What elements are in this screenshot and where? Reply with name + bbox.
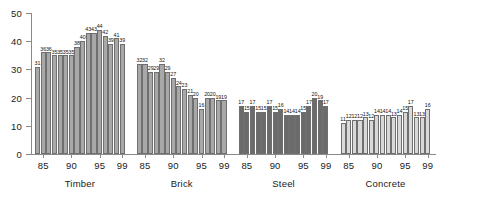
bar[interactable] [256, 112, 261, 154]
bar-item[interactable]: 13 [420, 13, 425, 154]
bar[interactable] [363, 117, 368, 154]
bar-item[interactable]: 17 [267, 13, 272, 154]
bar[interactable] [323, 106, 328, 154]
bar[interactable] [346, 120, 351, 154]
bar-item[interactable]: 11 [341, 13, 346, 154]
bar-item[interactable]: 14 [397, 13, 402, 154]
bar[interactable] [374, 115, 379, 154]
bar[interactable] [120, 44, 125, 154]
bar-item[interactable]: 14 [289, 13, 294, 154]
bar[interactable] [216, 100, 221, 154]
bar[interactable] [261, 112, 266, 154]
bar[interactable] [69, 55, 74, 154]
bar[interactable] [278, 109, 283, 154]
bar[interactable] [52, 55, 57, 154]
bar-item[interactable]: 19 [216, 13, 221, 154]
bar-item[interactable]: 20 [193, 13, 198, 154]
bar[interactable] [397, 115, 402, 154]
bar-item[interactable]: 40 [80, 13, 85, 154]
bar-item[interactable]: 35 [63, 13, 68, 154]
bar[interactable] [41, 52, 46, 154]
bar[interactable] [267, 106, 272, 154]
bar[interactable] [58, 55, 63, 154]
bar-item[interactable]: 16 [425, 13, 430, 154]
bar[interactable] [369, 120, 374, 154]
bar[interactable] [80, 41, 85, 154]
bar-item[interactable]: 20 [312, 13, 317, 154]
bar[interactable] [289, 115, 294, 154]
bar-item[interactable]: 12 [357, 13, 362, 154]
bar[interactable] [171, 78, 176, 154]
bar[interactable] [391, 117, 396, 154]
bar-item[interactable]: 35 [58, 13, 63, 154]
bar-item[interactable]: 29 [154, 13, 159, 154]
bar[interactable] [199, 109, 204, 154]
bar[interactable] [154, 72, 159, 154]
bar-item[interactable]: 15 [301, 13, 306, 154]
bar-item[interactable]: 12 [346, 13, 351, 154]
bar[interactable] [210, 98, 215, 154]
bar[interactable] [74, 47, 79, 154]
bar[interactable] [137, 64, 142, 154]
bar-item[interactable]: 17 [239, 13, 244, 154]
bar-item[interactable]: 32 [159, 13, 164, 154]
bar-item[interactable]: 15 [403, 13, 408, 154]
bar[interactable] [352, 120, 357, 154]
bar-item[interactable]: 29 [148, 13, 153, 154]
bar-item[interactable]: 19 [318, 13, 323, 154]
bar-item[interactable]: 35 [52, 13, 57, 154]
bar[interactable] [318, 100, 323, 154]
bar-item[interactable]: 43 [91, 13, 96, 154]
bar-item[interactable]: 13 [391, 13, 396, 154]
bar[interactable] [182, 89, 187, 154]
bar-item[interactable]: 20 [205, 13, 210, 154]
bar[interactable] [306, 106, 311, 154]
bar[interactable] [46, 52, 51, 154]
bar[interactable] [341, 123, 346, 154]
bar-item[interactable]: 14 [386, 13, 391, 154]
bar[interactable] [165, 72, 170, 154]
bar[interactable] [386, 115, 391, 154]
bar[interactable] [114, 38, 119, 154]
bar-item[interactable]: 16 [199, 13, 204, 154]
bar-item[interactable]: 15 [256, 13, 261, 154]
bar[interactable] [284, 115, 289, 154]
bar[interactable] [312, 98, 317, 154]
bar-item[interactable]: 17 [408, 13, 413, 154]
bar[interactable] [148, 72, 153, 154]
bar[interactable] [97, 30, 102, 154]
bar[interactable] [420, 117, 425, 154]
bar[interactable] [103, 36, 108, 154]
bar-item[interactable]: 20 [210, 13, 215, 154]
bar-item[interactable]: 35 [69, 13, 74, 154]
bar-item[interactable]: 12 [352, 13, 357, 154]
bar[interactable] [414, 117, 419, 154]
bar[interactable] [403, 112, 408, 154]
bar-item[interactable]: 19 [221, 13, 226, 154]
bar[interactable] [244, 112, 249, 154]
bar[interactable] [35, 67, 40, 154]
bar-item[interactable]: 36 [46, 13, 51, 154]
bar[interactable] [380, 115, 385, 154]
bar-item[interactable]: 14 [374, 13, 379, 154]
bar[interactable] [63, 55, 68, 154]
bar-item[interactable]: 31 [35, 13, 40, 154]
bar-item[interactable]: 43 [86, 13, 91, 154]
bar-item[interactable]: 17 [306, 13, 311, 154]
bar[interactable] [425, 109, 430, 154]
bar[interactable] [221, 100, 226, 154]
bar-item[interactable]: 21 [188, 13, 193, 154]
bar-item[interactable]: 29 [165, 13, 170, 154]
bar-item[interactable]: 41 [114, 13, 119, 154]
bar[interactable] [108, 44, 113, 154]
bar-item[interactable]: 14 [295, 13, 300, 154]
bar-item[interactable]: 15 [244, 13, 249, 154]
bar-item[interactable]: 14 [284, 13, 289, 154]
bar[interactable] [357, 120, 362, 154]
bar-item[interactable]: 17 [250, 13, 255, 154]
bar[interactable] [273, 112, 278, 154]
bar-item[interactable]: 42 [103, 13, 108, 154]
bar[interactable] [205, 98, 210, 154]
bar-item[interactable]: 39 [120, 13, 125, 154]
bar-item[interactable]: 16 [278, 13, 283, 154]
